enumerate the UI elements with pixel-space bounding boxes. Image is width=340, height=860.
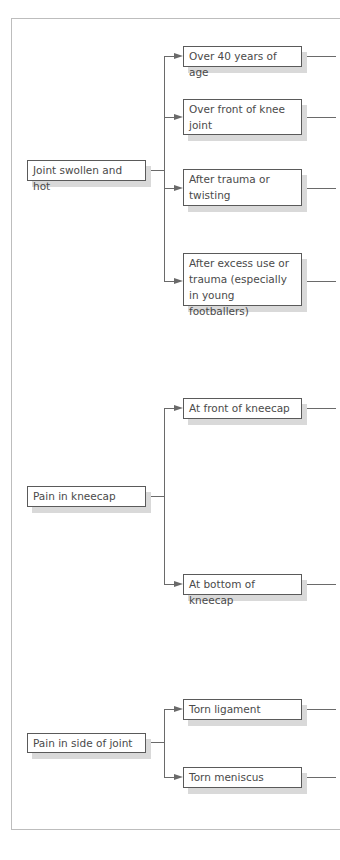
connector-line bbox=[146, 496, 164, 497]
root-label: Joint swollen and hot bbox=[33, 162, 140, 194]
arrow-head-icon bbox=[174, 405, 183, 411]
child-label: At front of kneecap bbox=[189, 400, 296, 416]
child-box-front-of-kneecap: At front of kneecap bbox=[183, 398, 302, 419]
arrow-head-icon bbox=[174, 581, 183, 587]
arrow-head-icon bbox=[174, 706, 183, 712]
child-box-over-40: Over 40 years of age bbox=[183, 46, 302, 67]
output-line bbox=[302, 281, 336, 282]
connector-line bbox=[146, 170, 164, 171]
output-line bbox=[302, 709, 336, 710]
child-label: At bottom of kneecap bbox=[189, 576, 296, 608]
arrow-head-icon bbox=[174, 185, 183, 191]
output-line bbox=[302, 584, 336, 585]
root-box-pain-in-kneecap: Pain in kneecap bbox=[27, 486, 146, 507]
output-line bbox=[302, 408, 336, 409]
child-box-bottom-of-kneecap: At bottom of kneecap bbox=[183, 574, 302, 595]
output-line bbox=[302, 56, 336, 57]
trunk-line bbox=[164, 408, 165, 585]
child-box-front-of-knee: Over front of knee joint bbox=[183, 99, 302, 135]
child-label: Over front of knee joint bbox=[189, 101, 296, 133]
arrow-head-icon bbox=[174, 278, 183, 284]
child-box-excess-use: After excess use or trauma (especially i… bbox=[183, 253, 302, 306]
root-box-pain-in-side-of-joint: Pain in side of joint bbox=[27, 733, 146, 753]
root-label: Pain in side of joint bbox=[33, 735, 140, 751]
child-label: After excess use or trauma (especially i… bbox=[189, 255, 296, 319]
child-label: After trauma or twisting bbox=[189, 171, 296, 203]
child-label: Torn meniscus bbox=[189, 769, 296, 785]
child-label: Over 40 years of age bbox=[189, 48, 296, 80]
trunk-line bbox=[164, 709, 165, 778]
child-box-torn-meniscus: Torn meniscus bbox=[183, 767, 302, 788]
connector-line bbox=[146, 742, 164, 743]
arrow-head-icon bbox=[174, 114, 183, 120]
output-line bbox=[302, 188, 336, 189]
child-box-after-trauma: After trauma or twisting bbox=[183, 169, 302, 206]
root-label: Pain in kneecap bbox=[33, 488, 140, 504]
arrow-head-icon bbox=[174, 774, 183, 780]
trunk-line bbox=[164, 56, 165, 282]
child-box-torn-ligament: Torn ligament bbox=[183, 699, 302, 720]
output-line bbox=[302, 777, 336, 778]
root-box-joint-swollen-and-hot: Joint swollen and hot bbox=[27, 160, 146, 181]
output-line bbox=[302, 117, 336, 118]
child-label: Torn ligament bbox=[189, 701, 296, 717]
arrow-head-icon bbox=[174, 53, 183, 59]
